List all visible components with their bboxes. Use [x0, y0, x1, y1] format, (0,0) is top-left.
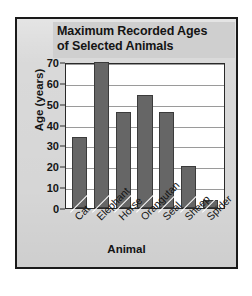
chart-title: Maximum Recorded Ages of Selected Animal…: [57, 24, 233, 54]
plot-area: [65, 63, 225, 209]
bar-slot: [199, 64, 221, 208]
bar-orangutan: [137, 95, 152, 208]
bar-slot: [69, 64, 91, 208]
x-axis-tick-labels: CatElephantHorseOrangutanSealSheepSpider: [65, 210, 225, 268]
y-tick-label: 50: [47, 99, 59, 111]
bar-elephant: [94, 62, 109, 208]
y-tick-label: 40: [47, 120, 59, 132]
y-tick-label: 60: [47, 78, 59, 90]
y-tick-label: 20: [47, 161, 59, 173]
y-tick-label: 30: [47, 140, 59, 152]
y-tick-label: 70: [47, 57, 59, 69]
x-axis-label: Animal: [17, 243, 236, 255]
y-axis-ticks: 706050403020100: [35, 63, 65, 209]
bars-layer: [66, 64, 224, 208]
bar-slot: [134, 64, 156, 208]
y-tick-label: 10: [47, 182, 59, 194]
figure-root: Maximum Recorded Ages of Selected Animal…: [0, 0, 252, 296]
y-tick-label: 0: [53, 203, 59, 215]
bar-slot: [91, 64, 113, 208]
chart-frame: Maximum Recorded Ages of Selected Animal…: [15, 17, 238, 269]
